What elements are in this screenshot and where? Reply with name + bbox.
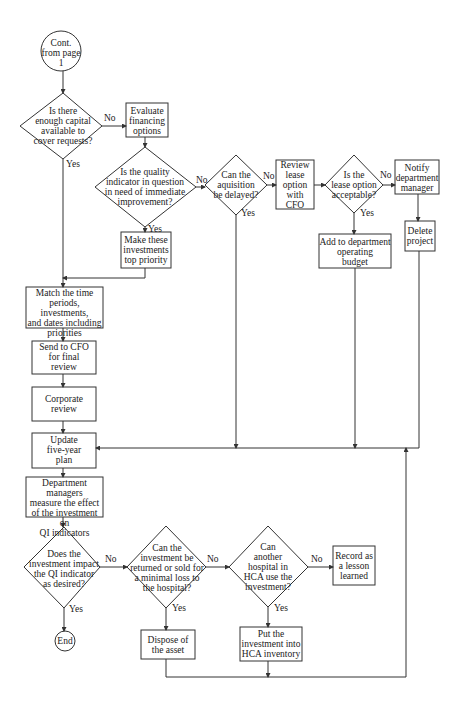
edge-label-yes: Yes	[69, 604, 83, 614]
edge-label-no: No	[207, 554, 219, 564]
decision-return-label: Can the investment be returned or sold f…	[130, 543, 204, 593]
decision-delay-label: Can the aquisition be delayed?	[206, 170, 266, 200]
lesson-label: Record as a lesson learned	[333, 551, 375, 581]
edge-label-no: No	[105, 554, 117, 564]
measure-effect-label: Department managers measure the effect o…	[26, 478, 103, 538]
edge-label-yes: Yes	[360, 208, 374, 218]
edge-label-yes: Yes	[241, 208, 255, 218]
corporate-review-label: Corporate review	[32, 394, 96, 414]
hca-inventory-label: Put the investment into HCA inventory	[240, 629, 302, 659]
dispose-label: Dispose of the asset	[141, 635, 195, 655]
update-plan-label: Update five-year plan	[32, 435, 96, 465]
match-periods-label: Match the time periods, investments, and…	[26, 288, 103, 338]
edge-label-yes: Yes	[274, 603, 288, 613]
start-connector-label: Cont. from page 1	[41, 38, 81, 68]
edge-label-no: No	[380, 170, 392, 180]
decision-capital-label: Is there enough capital available to cov…	[25, 106, 101, 146]
decision-other-hospital-label: Can another hospital in HCA use the inve…	[238, 542, 298, 592]
decision-impact-label: Does the investment impact the QI indica…	[28, 549, 100, 589]
notify-manager-label: Notify department manager	[395, 163, 439, 193]
add-budget-label: Add to department operating budget	[319, 237, 391, 267]
edge-label-no: No	[104, 113, 116, 123]
edge-label-yes: Yes	[66, 159, 80, 169]
end-connector-label: End	[55, 636, 75, 646]
evaluate-financing-label: Evaluate financing options	[126, 106, 168, 136]
edge-label-no: No	[196, 175, 208, 185]
edge-label-yes: Yes	[172, 603, 186, 613]
decision-lease-label: Is the lease option acceptable?	[326, 170, 382, 200]
review-lease-label: Review lease option with CFO	[276, 160, 314, 210]
delete-project-label: Delete project	[405, 226, 435, 246]
edge-label-no: No	[263, 171, 275, 181]
edge-label-yes: Yes	[148, 224, 162, 234]
top-priority-label: Make these investments top priority	[121, 235, 171, 265]
send-cfo-label: Send to CFO for final review	[32, 342, 96, 372]
edge-label-no: No	[311, 554, 323, 564]
decision-quality-label: Is the quality indicator in question in …	[95, 167, 195, 207]
